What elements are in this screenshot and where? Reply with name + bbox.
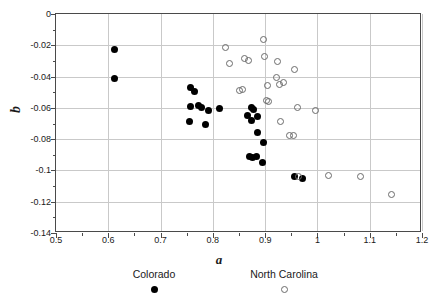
legend-marker-wrap-north-carolina [229,283,339,295]
data-point [202,121,209,128]
x-axis-tick-label: 0.6 [102,236,115,245]
data-point [265,98,272,105]
y-axis-minor-tick [53,186,56,187]
y-axis-tick-label: -0.12 [30,197,51,206]
data-point [291,66,298,73]
data-point [226,60,233,67]
data-point [290,132,297,139]
data-point [325,172,332,179]
data-point [294,104,301,111]
data-point [236,87,243,94]
y-axis-minor-tick [53,124,56,125]
data-point [254,113,261,120]
x-axis-minor-tick [187,233,188,236]
y-axis-tick-label: -0.08 [30,135,51,144]
legend-entry-north-carolina: North Carolina [229,268,339,295]
x-axis-tick-label: 0.5 [50,236,63,245]
data-point [253,153,260,160]
x-axis-tick-label: 0.7 [154,236,167,245]
gridline-vertical [317,14,318,231]
data-point [264,82,271,89]
data-point [191,88,198,95]
y-axis-tick [51,233,56,234]
x-axis-title: a [0,252,438,268]
y-axis-minor-tick [53,155,56,156]
y-axis-tick [51,45,56,46]
y-axis-tick-label: -0.1 [35,166,51,175]
gridline-horizontal [56,170,420,171]
data-point [261,53,268,60]
gridline-vertical [161,14,162,231]
plot-area: 0.50.60.70.80.911.11.20-0.02-0.04-0.06-0… [55,13,421,232]
gridline-vertical [108,14,109,231]
x-axis-minor-tick [344,233,345,236]
y-axis-minor-tick [53,217,56,218]
data-point [245,57,252,64]
y-axis-tick [51,14,56,15]
legend-entry-colorado: Colorado [99,268,209,295]
data-point [205,107,212,114]
legend-label-colorado: Colorado [99,268,209,280]
x-axis-minor-tick [291,233,292,236]
y-axis-tick-label: -0.04 [30,72,51,81]
gridline-vertical [213,14,214,231]
legend-label-north-carolina: North Carolina [229,268,339,280]
data-point [280,79,287,86]
data-point [111,46,118,53]
y-axis-tick-label: -0.02 [30,41,51,50]
y-axis-tick-label: -0.06 [30,103,51,112]
gridline-vertical [422,14,423,231]
data-point [187,103,194,110]
open-circle-icon [281,286,288,293]
x-axis-tick-label: 1.2 [416,236,429,245]
data-point [357,173,364,180]
y-axis-tick [51,202,56,203]
y-axis-tick [51,77,56,78]
y-axis-minor-tick [53,92,56,93]
x-axis-minor-tick [134,233,135,236]
legend: Colorado North Carolina [0,268,438,295]
x-axis-tick-label: 1.1 [363,236,376,245]
data-point [216,105,223,112]
data-point [259,159,266,166]
gridline-vertical [265,14,266,231]
data-point [260,139,267,146]
gridline-horizontal [56,45,420,46]
x-axis-tick-label: 0.8 [207,236,220,245]
y-axis-tick-label: 0 [46,10,51,19]
gridline-vertical [370,14,371,231]
gridline-horizontal [56,202,420,203]
data-point [250,106,257,113]
x-axis-minor-tick [239,233,240,236]
y-axis-tick [51,108,56,109]
gridline-horizontal [56,139,420,140]
y-axis-minor-tick [53,30,56,31]
data-point [186,118,193,125]
x-axis-tick-label: 1 [315,236,320,245]
x-axis-minor-tick [396,233,397,236]
legend-marker-wrap-colorado [99,283,209,295]
x-axis-tick-label: 0.9 [259,236,272,245]
filled-circle-icon [151,286,158,293]
x-axis-minor-tick [82,233,83,236]
gridline-horizontal [56,108,420,109]
data-point [222,44,229,51]
data-point [277,118,284,125]
data-point [111,75,118,82]
data-point [273,74,280,81]
data-point [254,129,261,136]
y-axis-tick [51,170,56,171]
y-axis-title: b [8,106,24,113]
y-axis-tick-label: -0.14 [30,229,51,238]
data-point [274,58,281,65]
y-axis-tick [51,139,56,140]
data-point [295,173,302,180]
scatter-plot-figure: b 0.50.60.70.80.911.11.20-0.02-0.04-0.06… [0,0,438,304]
y-axis-minor-tick [53,61,56,62]
data-point [388,191,395,198]
